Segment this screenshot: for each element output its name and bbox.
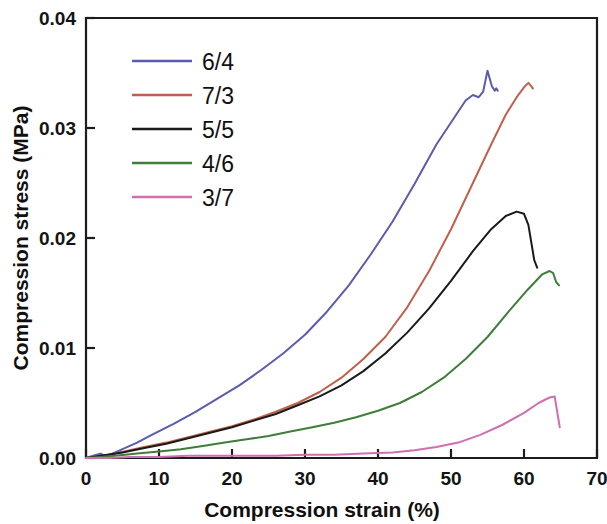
x-tick-label: 20 [221, 468, 242, 489]
legend-label-6-4: 6/4 [202, 49, 234, 75]
y-tick-label: 0.03 [39, 118, 76, 139]
x-tick-label: 30 [294, 468, 315, 489]
y-tick-label: 0.04 [39, 8, 76, 29]
x-axis-title: Compression strain (%) [204, 498, 440, 521]
legend-label-4-6: 4/6 [202, 151, 234, 177]
chart-background [0, 0, 607, 524]
x-tick-label: 60 [513, 468, 534, 489]
y-tick-label: 0.01 [39, 338, 76, 359]
x-tick-label: 40 [367, 468, 388, 489]
y-tick-label: 0.00 [39, 448, 76, 469]
compression-stress-strain-chart: 0.000.010.020.030.04 010203040506070 6/4… [0, 0, 607, 524]
x-tick-label: 0 [81, 468, 92, 489]
chart-canvas: 0.000.010.020.030.04 010203040506070 6/4… [0, 0, 607, 524]
legend-label-5-5: 5/5 [202, 117, 234, 143]
y-tick-label: 0.02 [39, 228, 76, 249]
y-axis-title: Compression stress (MPa) [9, 106, 32, 371]
legend-label-7-3: 7/3 [202, 83, 234, 109]
x-tick-label: 70 [586, 468, 607, 489]
legend-label-3-7: 3/7 [202, 185, 234, 211]
x-tick-label: 10 [148, 468, 169, 489]
x-tick-label: 50 [440, 468, 461, 489]
